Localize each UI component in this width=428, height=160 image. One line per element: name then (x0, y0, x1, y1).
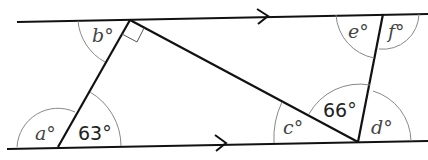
arc-c (274, 102, 282, 143)
diagram-canvas: a° 63° b° c° 66° d° e° f° (0, 0, 428, 160)
angle-label-63: 63° (78, 122, 112, 144)
triangle-hypotenuse (130, 20, 358, 142)
angle-label-c: c° (283, 116, 303, 138)
bottom-parallel-line (7, 141, 428, 149)
bottom-arrow-icon (215, 135, 226, 151)
angle-label-66: 66° (323, 99, 357, 121)
angle-label-a: a° (35, 122, 56, 144)
angle-label-d: d° (371, 116, 393, 138)
geometry-diagram: a° 63° b° c° 66° d° e° f° (0, 0, 428, 160)
angle-label-e: e° (348, 20, 369, 42)
angle-label-b: b° (92, 24, 114, 46)
angle-label-f: f° (386, 20, 405, 42)
